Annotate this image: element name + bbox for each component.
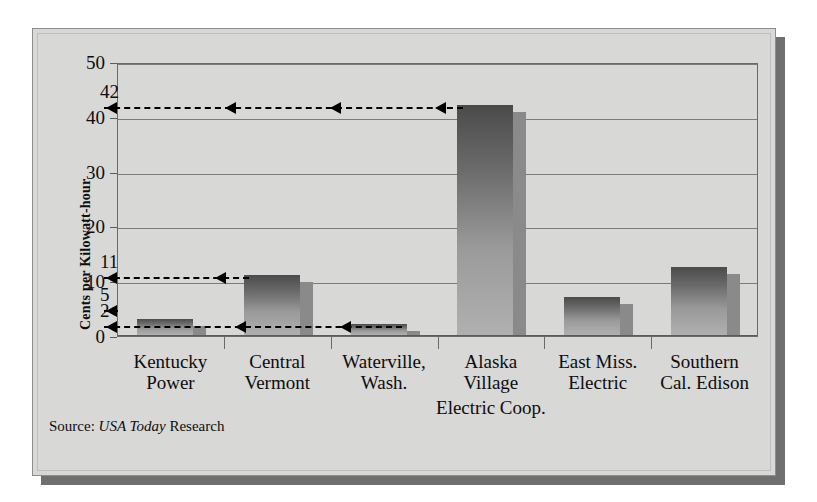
gridline [118, 174, 757, 175]
y-axis-tick-label: 40 [59, 108, 105, 127]
chart-figure: Cents per Kilowatt-hour 01020304050 Kent… [0, 0, 817, 502]
gridline [118, 64, 757, 65]
x-axis-category-label: Southern Cal. Edison [639, 351, 770, 394]
x-axis-tick-mark [331, 337, 332, 349]
bar-side-face [727, 274, 740, 336]
source-note: Source: USA Today Research [49, 418, 224, 435]
annotation-value-label: 42 [100, 81, 119, 103]
x-axis-tick-mark [224, 337, 225, 349]
x-axis-category-label-extra: Electric Coop. [398, 397, 585, 419]
bar [457, 105, 513, 335]
annotation-arrowhead [225, 102, 236, 114]
annotation-value-label: 11 [100, 251, 118, 273]
annotation-dashed-line [104, 277, 249, 279]
annotation-arrowhead [330, 102, 341, 114]
source-publication: USA Today [99, 418, 166, 434]
source-prefix: Source: [49, 418, 99, 434]
annotation-arrowhead [340, 321, 351, 333]
bar-side-face [620, 304, 633, 335]
annotation-arrowhead [106, 272, 117, 284]
y-axis-tick-mark [110, 173, 117, 174]
y-axis-tick-label: 30 [59, 163, 105, 182]
y-axis-tick-mark [110, 227, 117, 228]
y-axis-tick-mark [110, 118, 117, 119]
annotation-arrowhead [106, 102, 117, 114]
gridline [118, 283, 757, 284]
bar [564, 297, 620, 335]
annotation-arrowhead [106, 321, 117, 333]
source-suffix: Research [166, 418, 225, 434]
gridline [118, 119, 757, 120]
y-axis-tick-mark [110, 337, 117, 338]
bar-side-face [513, 112, 526, 335]
gridline [118, 228, 757, 229]
annotation-dashed-line [104, 326, 402, 328]
annotation-dashed-line [104, 107, 463, 109]
y-axis-tick-label: 10 [59, 272, 105, 291]
annotation-arrowhead [215, 272, 226, 284]
annotation-value-label: 2 [100, 300, 110, 322]
x-axis-tick-mark [544, 337, 545, 349]
y-axis-tick-label: 50 [59, 53, 105, 72]
x-axis-tick-mark [438, 337, 439, 349]
y-axis-tick-label: 20 [59, 217, 105, 236]
y-axis-title: Cents per Kilowatt-hour [78, 179, 94, 330]
bar [671, 267, 727, 336]
annotation-arrowhead [435, 102, 446, 114]
x-axis-tick-mark [651, 337, 652, 349]
x-axis-line [118, 335, 757, 336]
y-axis-tick-mark [110, 63, 117, 64]
annotation-arrowhead [235, 321, 246, 333]
y-axis-tick-label: 0 [59, 327, 105, 346]
